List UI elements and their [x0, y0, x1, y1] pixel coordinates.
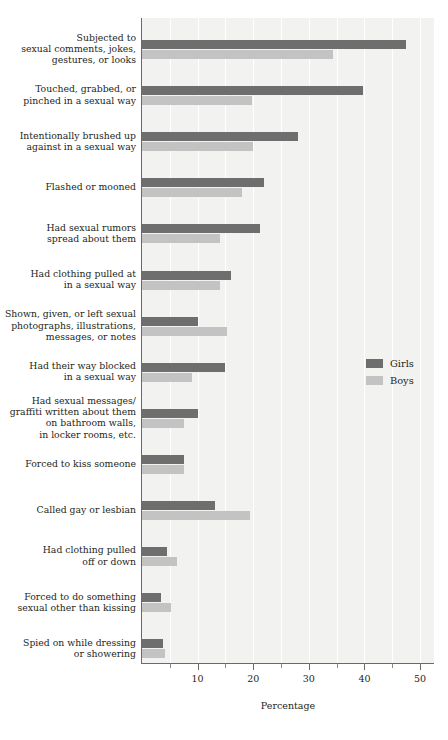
category-label-line: Spied on while dressing — [0, 637, 136, 648]
category-label-line: Had clothing pulled at — [0, 268, 136, 279]
bar-girls — [142, 501, 215, 510]
category-label-line: Forced to do something — [0, 591, 136, 602]
category-label: Flashed or mooned — [0, 181, 136, 192]
category-label: Shown, given, or left sexualphotographs,… — [0, 308, 136, 342]
x-tick-minor — [337, 664, 338, 668]
bar-girls — [142, 271, 231, 280]
bar-girls — [142, 547, 167, 556]
bar-boys — [142, 465, 184, 474]
category-label: Had clothing pulled atin a sexual way — [0, 268, 136, 290]
bar-girls — [142, 317, 198, 326]
category-label-line: sexual comments, jokes, — [0, 43, 136, 54]
legend-entry-boys[interactable]: Boys — [366, 374, 414, 387]
legend-entry-girls[interactable]: Girls — [366, 357, 414, 370]
y-axis-line — [141, 18, 142, 663]
category-label: Spied on while dressingor showering — [0, 637, 136, 659]
bar-girls — [142, 363, 225, 372]
gridline — [225, 18, 226, 663]
category-label: Had their way blockedin a sexual way — [0, 360, 136, 382]
plot-area — [142, 18, 434, 663]
category-label-line: sexual other than kissing — [0, 602, 136, 613]
x-tick-major — [309, 664, 310, 670]
category-label-line: in locker rooms, etc. — [0, 429, 136, 440]
category-label-line: off or down — [0, 556, 136, 567]
x-tick-label: 30 — [289, 673, 329, 684]
legend-swatch-girls — [366, 359, 383, 368]
category-label-line: in a sexual way — [0, 279, 136, 290]
bar-boys — [142, 142, 253, 151]
category-label-line: in a sexual way — [0, 371, 136, 382]
x-axis-line — [141, 663, 434, 664]
category-label-line: gestures, or looks — [0, 54, 136, 65]
x-tick-major — [253, 664, 254, 670]
gridline — [170, 18, 171, 663]
category-label-line: pinched in a sexual way — [0, 95, 136, 106]
bar-boys — [142, 649, 165, 658]
bar-boys — [142, 188, 242, 197]
bar-girls — [142, 132, 298, 141]
category-label-line: or showering — [0, 648, 136, 659]
legend-label-girls: Girls — [390, 358, 414, 369]
category-label-line: Called gay or lesbian — [0, 504, 136, 515]
bar-girls — [142, 639, 163, 648]
bar-boys — [142, 234, 220, 243]
gridline — [309, 18, 310, 663]
x-tick-label: 20 — [233, 673, 273, 684]
category-label: Had sexual messages/graffiti written abo… — [0, 395, 136, 440]
category-label-line: Subjected to — [0, 32, 136, 43]
bar-girls — [142, 40, 406, 49]
legend-swatch-boys — [366, 376, 383, 385]
legend: Girls Boys — [366, 357, 414, 391]
category-label: Had sexual rumorsspread about them — [0, 222, 136, 244]
category-label-line: against in a sexual way — [0, 141, 136, 152]
x-tick-minor — [392, 664, 393, 668]
category-label-line: Flashed or mooned — [0, 181, 136, 192]
gridline — [337, 18, 338, 663]
gridline — [364, 18, 365, 663]
category-label-line: messages, or notes — [0, 331, 136, 342]
category-label-line: Intentionally brushed up — [0, 130, 136, 141]
gridline — [198, 18, 199, 663]
legend-label-boys: Boys — [390, 375, 414, 386]
category-label-line: Touched, grabbed, or — [0, 83, 136, 94]
x-tick-major — [198, 664, 199, 670]
x-tick-minor — [170, 664, 171, 668]
category-label: Forced to do somethingsexual other than … — [0, 591, 136, 613]
category-label-line: Had their way blocked — [0, 360, 136, 371]
bar-boys — [142, 373, 192, 382]
gridline — [392, 18, 393, 663]
x-tick-minor — [281, 664, 282, 668]
bar-boys — [142, 557, 177, 566]
category-label-line: Had sexual rumors — [0, 222, 136, 233]
x-tick-minor — [225, 664, 226, 668]
category-label-line: Had clothing pulled — [0, 544, 136, 555]
bar-chart: Subjected tosexual comments, jokes,gestu… — [0, 0, 448, 740]
gridline — [281, 18, 282, 663]
bar-boys — [142, 603, 171, 612]
bar-boys — [142, 50, 333, 59]
category-label-line: photographs, illustrations, — [0, 320, 136, 331]
x-tick-label: 50 — [400, 673, 440, 684]
bar-girls — [142, 409, 198, 418]
bar-girls — [142, 224, 260, 233]
gridline — [253, 18, 254, 663]
category-label: Intentionally brushed upagainst in a sex… — [0, 130, 136, 152]
x-tick-label: 10 — [178, 673, 218, 684]
bar-boys — [142, 96, 252, 105]
category-label-line: spread about them — [0, 233, 136, 244]
bar-boys — [142, 419, 184, 428]
bar-girls — [142, 178, 264, 187]
category-label: Touched, grabbed, orpinched in a sexual … — [0, 83, 136, 105]
category-label-line: Shown, given, or left sexual — [0, 308, 136, 319]
gridline — [420, 18, 421, 663]
category-label-line: Forced to kiss someone — [0, 458, 136, 469]
bar-boys — [142, 281, 220, 290]
bar-girls — [142, 86, 363, 95]
bar-boys — [142, 327, 227, 336]
category-label-line: graffiti written about them — [0, 406, 136, 417]
category-label-line: Had sexual messages/ — [0, 395, 136, 406]
bar-girls — [142, 455, 184, 464]
category-label-line: on bathroom walls, — [0, 417, 136, 428]
bar-girls — [142, 593, 161, 602]
x-axis-title: Percentage — [142, 700, 434, 711]
